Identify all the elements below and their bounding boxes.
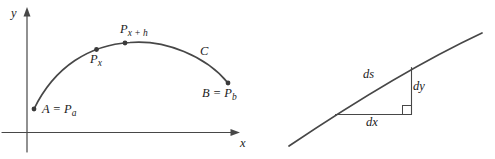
point-pxh-dot (123, 41, 128, 46)
point-a-label-sub: a (72, 108, 77, 118)
curve-c-label: C (200, 44, 209, 58)
y-axis-arrowhead-icon (24, 7, 31, 17)
point-b-label-main: B = P (202, 86, 232, 100)
point-a-dot (32, 107, 37, 112)
differential-triangle-diagram (289, 33, 482, 146)
figure-canvas: y x A = Pa Px Px + h C B = Pb ds dy dx (0, 0, 495, 159)
point-pxh-label: Px + h (119, 22, 148, 38)
point-px-label-sub: x (97, 58, 103, 68)
ds-label: ds (363, 67, 374, 81)
point-b-label: B = Pb (202, 86, 237, 102)
point-b-dot (226, 81, 231, 86)
point-px-label: Px (89, 52, 103, 68)
point-px-label-main: P (89, 52, 98, 66)
curve-C-path (34, 42, 228, 109)
tangent-curve-path (289, 33, 482, 146)
x-axis-label: x (239, 136, 246, 150)
point-pxh-label-sub: x + h (127, 28, 148, 38)
y-axis-label: y (9, 6, 17, 20)
point-pxh-label-main: P (119, 22, 128, 36)
dy-label: dy (413, 79, 425, 93)
dx-label: dx (366, 115, 378, 129)
point-a-label-main: A = P (41, 102, 72, 116)
point-b-label-sub: b (232, 92, 237, 102)
x-axis-arrowhead-icon (231, 129, 241, 136)
arc-length-figure: y x A = Pa Px Px + h C B = Pb ds dy dx (0, 0, 495, 159)
right-angle-marker-icon (403, 106, 412, 115)
point-a-label: A = Pa (41, 102, 77, 118)
